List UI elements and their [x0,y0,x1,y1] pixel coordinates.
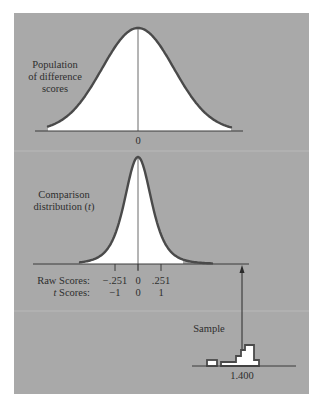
t-score-minus: −1 [109,287,120,298]
t-score-zero: 0 [135,287,140,298]
t-test-diagram: Population of difference scores 0 Compar… [0,0,322,401]
t-score-plus: 1 [158,287,163,298]
raw-scores-label: Raw Scores: [37,275,90,286]
comparison-label-prefix: distribution ( [34,201,89,213]
t-scores-label-suffix: Scores: [56,287,90,298]
sample-mean-label: 1.400 [230,370,254,381]
raw-score-plus: .251 [152,275,170,286]
comparison-label-line1: Comparison [38,189,90,200]
raw-score-zero: 0 [135,275,140,286]
t-scores-label: t Scores: [54,287,91,298]
sample-label: Sample [193,323,225,334]
population-label-line1: Population [32,59,78,70]
population-center-label: 0 [135,135,140,146]
population-label-line3: scores [42,83,68,94]
raw-score-minus: −.251 [103,275,127,286]
comparison-label-line2: distribution (t) [34,201,95,213]
histogram-bar [207,360,217,366]
population-label-line2: of difference [28,71,82,82]
comparison-label-suffix: ) [91,201,95,213]
